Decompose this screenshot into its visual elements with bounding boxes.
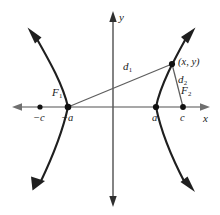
- focus-2-label: F2: [181, 85, 191, 97]
- point-a: [153, 104, 159, 110]
- y-axis-up-arrowhead: [109, 11, 116, 22]
- point-label-c: c: [180, 113, 185, 124]
- y-axis-down-arrowhead: [109, 196, 116, 207]
- focus-1-letter: F: [52, 86, 59, 98]
- focus-1-label: F1: [52, 87, 62, 99]
- left-branch: [28, 28, 69, 191]
- point-xy: [169, 61, 175, 67]
- hyperbola-figure: y x −c −a a c (x, y) F1 F2 d1 d2: [0, 0, 220, 215]
- point-minus-c: [37, 104, 42, 109]
- x-axis-label: x: [203, 113, 208, 124]
- figure-canvas: [0, 0, 220, 215]
- d2-letter: d: [178, 73, 184, 85]
- distance-d1-label: d1: [123, 61, 132, 73]
- x-axis-left-arrowhead: [12, 103, 22, 111]
- point-label-a: a: [152, 113, 157, 124]
- x-axis-right-arrowhead: [200, 103, 210, 111]
- d1-subscript: 1: [129, 66, 133, 73]
- focus-1-subscript: 1: [59, 92, 63, 99]
- d1-letter: d: [123, 60, 129, 72]
- point-label-xy: (x, y): [178, 57, 200, 68]
- left-branch-upper-arrowhead: [28, 28, 42, 44]
- focus-2-subscript: 2: [188, 90, 192, 97]
- right-branch-upper-arrowhead: [181, 28, 196, 44]
- y-axis: [109, 11, 116, 207]
- d2-subscript: 2: [184, 79, 188, 86]
- point-minus-a: [65, 104, 72, 111]
- right-branch: [156, 28, 196, 193]
- y-axis-label: y: [119, 12, 124, 23]
- segment-d1: [68, 64, 172, 107]
- point-label-minus-a: −a: [61, 113, 73, 124]
- distance-d2-label: d2: [178, 74, 187, 86]
- point-label-minus-c: −c: [33, 113, 45, 124]
- point-c: [180, 104, 186, 110]
